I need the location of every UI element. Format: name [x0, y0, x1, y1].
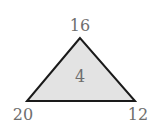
center-label: 4: [75, 67, 85, 86]
bottom-right-vertex-label: 12: [128, 105, 148, 124]
triangle-diagram: 16 4 20 12: [0, 0, 157, 129]
bottom-left-vertex-label: 20: [13, 105, 33, 124]
top-vertex-label: 16: [70, 16, 90, 35]
